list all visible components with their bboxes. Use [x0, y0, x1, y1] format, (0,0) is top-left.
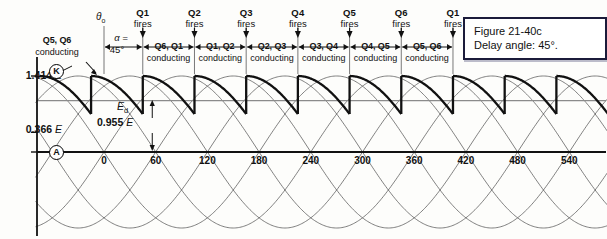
output-segment-5: [298, 76, 350, 114]
output-arc: [143, 76, 195, 114]
x-tick-label-1: 60: [138, 156, 174, 166]
figure-caption-box: Figure 21-40c Delay angle: 45°.: [463, 17, 607, 60]
caption-line-1: Figure 21-40c: [474, 24, 596, 38]
conducting-pair-0: Q6, Q1: [143, 42, 195, 51]
caption-line-2: Delay angle: 45°.: [474, 38, 596, 52]
alpha-arrow-right: [137, 44, 142, 50]
output-arc: [401, 76, 453, 114]
output-arc: [194, 76, 246, 114]
output-segment-8: [453, 76, 505, 114]
conducting-pair-4: Q4, Q5: [349, 42, 401, 51]
output-segment-6: [350, 76, 402, 114]
x-tick-label-0: 0: [86, 156, 122, 166]
firing-label-fires-0: fires: [123, 19, 163, 29]
firing-label-fires-2: fires: [226, 19, 266, 29]
conducting-pair-initial: Q5, Q6: [22, 36, 92, 45]
output-segment-7: [401, 76, 453, 114]
output-arc: [350, 76, 402, 114]
output-arc: [246, 76, 298, 114]
firing-label-fires-5: fires: [381, 19, 421, 29]
conducting-word-2: conducting: [244, 54, 300, 63]
firing-label-fires-1: fires: [174, 19, 214, 29]
x-tick-label-2: 120: [189, 156, 225, 166]
output-segment-4: [246, 76, 298, 114]
conducting-pair-3: Q3, Q4: [298, 42, 350, 51]
conducting-pair-2: Q2, Q3: [246, 42, 298, 51]
output-arc: [453, 76, 505, 114]
node-marker-k: K: [49, 64, 64, 79]
x-tick-label-9: 540: [551, 156, 587, 166]
ed-value-label: 0.955 E: [97, 117, 133, 128]
x-tick-label-3: 180: [241, 156, 277, 166]
conducting-word-initial: conducting: [18, 48, 96, 57]
x-tick-label-4: 240: [293, 156, 329, 166]
conducting-word-1: conducting: [192, 54, 248, 63]
output-arc: [505, 76, 557, 114]
y-label-min: 0.366 E: [0, 124, 62, 135]
firing-label-name-4: Q5: [330, 8, 370, 18]
output-arc: [39, 76, 91, 114]
output-arc: [298, 76, 350, 114]
ed-symbol-label: Ed: [117, 101, 128, 115]
conducting-word-4: conducting: [347, 54, 403, 63]
firing-label-name-5: Q6: [381, 8, 421, 18]
theta-leader-head: [91, 69, 97, 75]
x-tick-label-8: 480: [500, 156, 536, 166]
x-tick-label-7: 420: [448, 156, 484, 166]
firing-label-fires-3: fires: [278, 19, 318, 29]
conducting-pair-1: Q1, Q2: [194, 42, 246, 51]
output-segment-0: [39, 76, 91, 114]
conducting-pair-5: Q5, Q6: [401, 42, 453, 51]
conducting-word-0: conducting: [141, 54, 197, 63]
output-segment-2: [143, 76, 195, 114]
x-tick-label-6: 360: [396, 156, 432, 166]
theta-origin-label: θo: [96, 12, 105, 24]
firing-label-fires-4: fires: [330, 19, 370, 29]
alpha-symbol-label: α =: [100, 33, 142, 43]
output-segment-9: [505, 76, 557, 114]
conducting-word-5: conducting: [399, 54, 455, 63]
firing-label-name-3: Q4: [278, 8, 318, 18]
firing-label-name-0: Q1: [123, 8, 163, 18]
firing-label-name-1: Q2: [174, 8, 214, 18]
output-segment-3: [194, 76, 246, 114]
x-tick-label-5: 300: [345, 156, 381, 166]
alpha-value-label: 45°: [100, 45, 134, 55]
conducting-word-3: conducting: [296, 54, 352, 63]
node-marker-a: A: [49, 145, 64, 160]
firing-label-name-2: Q3: [226, 8, 266, 18]
